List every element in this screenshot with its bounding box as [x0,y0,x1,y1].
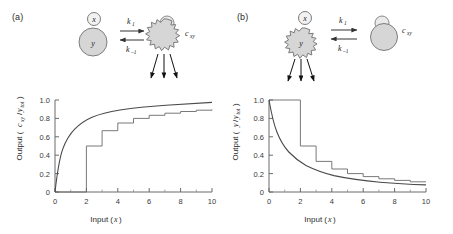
panel-a-axes [55,100,212,192]
rate-forward-label-b: k [339,16,343,25]
xlabel-var: x [327,215,332,224]
panel-b-ytick-labels: 0 0.2 0.4 0.6 0.8 1.0 [254,96,264,197]
forward-reaction-arrow-b: k 1 [331,16,357,30]
ytick-label: 0.6 [254,133,264,142]
species-x-label-b: x [302,14,307,23]
output-arrows-b [288,59,314,81]
figure-container: (a) x y [0,0,453,234]
xtick-label: 6 [361,197,365,206]
rate-forward-sub-b: 1 [344,20,347,26]
rate-forward-sub-a: 1 [132,21,135,27]
ytick-label: 0.2 [254,170,264,179]
rate-reverse-label-b: k [338,44,342,53]
panel-a-plot: 0 0.2 0.4 0.6 0.8 1.0 0 2 4 6 8 10 [0,84,226,234]
ytick-label: 0.8 [254,114,264,123]
panel-b: (b) x y [227,0,453,234]
ylabel-prefix: Output ( [231,131,240,160]
panel-b-plot: 0 0.2 0.4 0.6 0.8 1.0 0 2 4 6 8 10 [227,84,453,234]
ylabel-den-sub: tot [235,108,241,114]
panel-a-schematic: x y k 1 k –1 [0,0,226,96]
xlabel-suffix: ) [333,215,336,224]
ytick-label: 0.6 [40,133,50,142]
xtick-label: 10 [208,197,216,206]
panel-a-xlabel: Input ( x ) [90,215,122,224]
xtick-label: 6 [147,197,151,206]
xtick-label: 8 [179,197,183,206]
panel-b-step-series [269,100,426,182]
xtick-label: 4 [330,197,334,206]
species-y-label-a: y [90,39,95,48]
ytick-label: 0.2 [40,170,50,179]
output-arrows-a [151,54,177,78]
ytick-label: 1.0 [40,96,50,105]
xlabel-prefix: Input ( [90,215,113,224]
reverse-reaction-arrow-b: k –1 [331,39,357,54]
xtick-label: 2 [298,197,302,206]
complex-label-a: c [185,29,189,38]
xtick-label: 0 [53,197,57,206]
xlabel-prefix: Input ( [304,215,327,224]
complex-label-b: c [402,26,406,35]
rate-reverse-sub-b: –1 [342,48,349,54]
ylabel-num: y [231,123,240,128]
ytick-label: 0.4 [40,151,50,160]
ylabel-suffix: ) [231,103,240,106]
ylabel-prefix: Output ( [15,131,24,160]
rate-reverse-sub-a: –1 [130,49,137,55]
ytick-label: 0 [260,188,264,197]
species-x-glyph-b: x [299,12,312,25]
xtick-label: 4 [116,197,120,206]
ytick-label: 1.0 [254,96,264,105]
rate-forward-label-a: k [127,17,131,26]
xtick-label: 0 [267,197,271,206]
ytick-label: 0.4 [254,151,264,160]
panel-a-step-series [55,109,212,192]
panel-b-schematic: x y k 1 [227,0,453,96]
species-x-glyph-a: x [88,13,101,26]
ytick-label: 0.8 [40,114,50,123]
panel-a-ytick-labels: 0 0.2 0.4 0.6 0.8 1.0 [40,96,50,197]
ylabel-suffix: ) [15,96,24,99]
panel-b-ylabel: Output ( y / y tot ) [231,103,241,160]
complex-cxy-glyph-b: c xy [371,16,413,51]
panel-a: (a) x y [0,0,226,234]
xlabel-suffix: ) [119,215,122,224]
xlabel-var: x [113,215,118,224]
species-y-glyph-b: y [285,28,318,58]
xtick-label: 10 [422,197,430,206]
ylabel-den: y [231,115,240,120]
xtick-label: 2 [84,197,88,206]
xtick-label: 8 [393,197,397,206]
ytick-label: 0 [46,188,50,197]
panel-a-ylabel: Output ( c xy / y tot ) [15,96,25,160]
species-y-glyph-a: y [79,28,107,56]
ylabel-den: y [15,108,24,113]
panel-b-xlabel: Input ( x ) [304,215,336,224]
species-x-label-a: x [91,15,96,24]
panel-b-xtick-labels: 0 2 4 6 8 10 [267,197,430,206]
forward-reaction-arrow-a: k 1 [120,17,144,31]
species-y-label-b: y [298,39,303,48]
ylabel-den-sub: tot [19,101,25,107]
ylabel-num-sub: xy [19,117,25,123]
rate-reverse-label-a: k [126,45,130,54]
panel-a-curve-series [55,102,212,192]
complex-sub-a: xy [189,33,195,39]
reverse-reaction-arrow-a: k –1 [120,40,144,55]
ylabel-num: c [15,123,24,127]
complex-sub-b: xy [406,30,412,36]
complex-cxy-glyph-a: c xy [146,16,196,51]
panel-a-xtick-labels: 0 2 4 6 8 10 [53,197,216,206]
